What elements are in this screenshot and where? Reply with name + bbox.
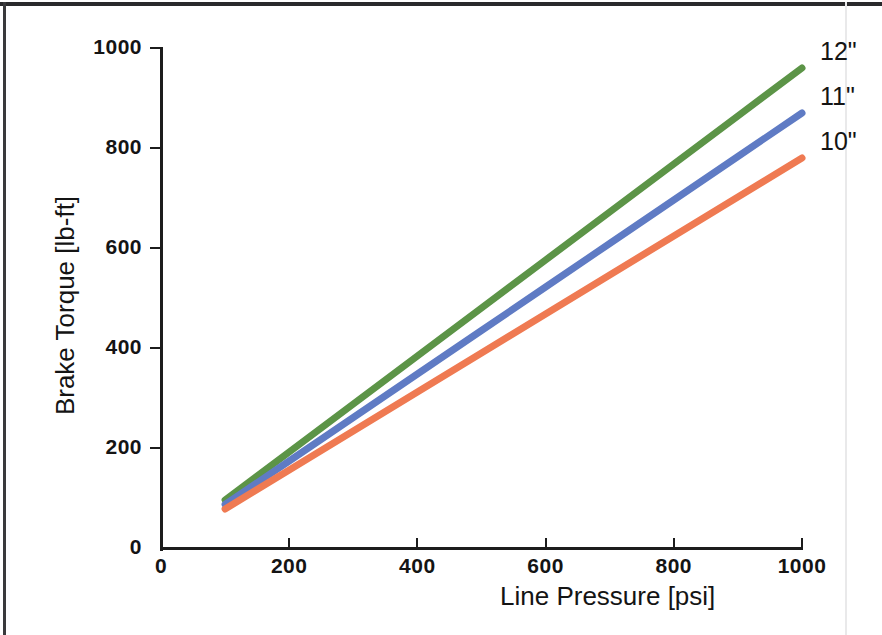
series-line-11in [225,113,802,505]
line-chart: 02004006008001000 02004006008001000 Brak… [0,0,882,635]
series-label-12in: 12" [820,37,857,66]
series-lines [0,0,882,635]
series-label-10in: 10" [820,127,857,156]
series-line-10in [225,158,802,509]
series-label-11in: 11" [820,82,855,111]
series-line-12in [225,68,802,500]
figure-page: 02004006008001000 02004006008001000 Brak… [0,0,882,635]
